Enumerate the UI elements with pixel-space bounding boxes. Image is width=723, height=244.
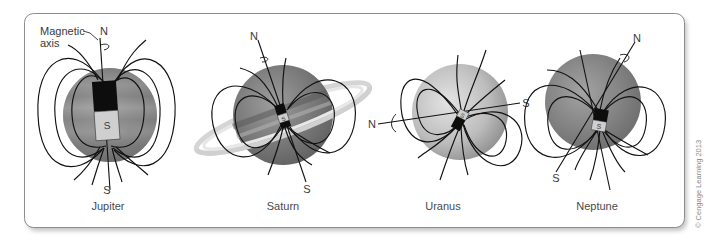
saturn-south-label: S: [303, 183, 310, 195]
neptune-south-label: S: [552, 172, 559, 184]
neptune-north-label: N: [633, 32, 641, 44]
jupiter-magnet-label: S: [103, 120, 111, 131]
magnetic-fields-figure: S Magnetic axis N S Jupiter: [0, 0, 723, 244]
magnetic-axis-label-line2: axis: [40, 37, 60, 49]
neptune-name-label: Neptune: [576, 200, 618, 212]
magnetic-axis-label-line1: Magnetic: [40, 25, 85, 37]
jupiter-north-label: N: [100, 25, 108, 37]
uranus-name-label: Uranus: [425, 200, 461, 212]
copyright-notice: © Cengage Learning 2013: [694, 140, 703, 228]
jupiter-bar-magnet: S: [92, 80, 120, 141]
jupiter-name-label: Jupiter: [91, 200, 124, 212]
uranus-north-label: N: [368, 118, 376, 130]
saturn-name-label: Saturn: [267, 200, 299, 212]
jupiter-south-label: S: [103, 184, 110, 196]
saturn-north-label: N: [250, 30, 258, 42]
